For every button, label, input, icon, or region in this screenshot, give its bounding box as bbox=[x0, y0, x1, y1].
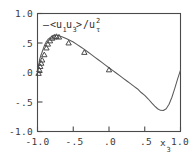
data-marker-triangle bbox=[42, 52, 47, 57]
series-label-slash-u: /u bbox=[83, 19, 95, 30]
x-axis-ticks bbox=[38, 127, 181, 132]
x-tick-label--1.0: -1.0 bbox=[25, 136, 49, 147]
x-axis-label-subscript: 3 bbox=[167, 146, 171, 154]
chart-plot: 1.0 .5 .0 -.5 -1.0 -1.0 -.5 .0 .5 1.0 x … bbox=[0, 0, 195, 161]
data-curve bbox=[38, 35, 181, 110]
series-label-sub-tau: τ bbox=[96, 26, 100, 34]
x-tick-label-0.5: .5 bbox=[140, 136, 152, 147]
x-tick-label-1.0: 1.0 bbox=[171, 136, 189, 147]
series-label-u-second: u bbox=[66, 19, 72, 30]
x-axis-label-main: x bbox=[160, 137, 166, 148]
y-tick-label-1.0: 1.0 bbox=[15, 8, 33, 19]
x-tick-label-0.0: .0 bbox=[104, 136, 116, 147]
series-label-sup-two: 2 bbox=[96, 17, 100, 25]
series-label-minus: – bbox=[43, 19, 50, 30]
x-axis-label: x 3 bbox=[160, 137, 171, 154]
x-tick-label--0.5: -.5 bbox=[65, 136, 83, 147]
series-label: – < u 1 u 3 > /u τ 2 bbox=[43, 17, 100, 34]
y-tick-label-0.5: .5 bbox=[21, 38, 33, 49]
series-label-close-angle: > bbox=[76, 19, 82, 30]
series-label-u-first: u bbox=[56, 19, 62, 30]
plot-frame bbox=[38, 14, 181, 132]
data-marker-triangle bbox=[106, 67, 111, 72]
y-tick-label--0.5: -.5 bbox=[15, 97, 33, 108]
figure-container: 1.0 .5 .0 -.5 -1.0 -1.0 -.5 .0 .5 1.0 x … bbox=[0, 0, 195, 161]
y-tick-label-0.0: .0 bbox=[21, 67, 33, 78]
